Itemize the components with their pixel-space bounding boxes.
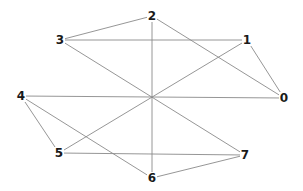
edge-1-0: [247, 40, 284, 98]
node-label: 7: [241, 148, 249, 162]
node-2: 2: [147, 9, 157, 23]
node-0: 0: [279, 91, 289, 105]
node-5: 5: [54, 146, 64, 160]
node-1: 1: [242, 33, 252, 47]
node-label: 2: [148, 9, 156, 23]
node-7: 7: [240, 148, 250, 162]
node-label: 3: [56, 33, 64, 47]
edge-6-7: [152, 155, 245, 178]
node-label: 5: [55, 146, 63, 160]
node-label: 4: [17, 89, 25, 103]
edge-3-2: [60, 16, 152, 40]
node-6: 6: [147, 171, 157, 185]
graph-diagram: 01234567: [0, 0, 303, 191]
node-label: 0: [280, 91, 288, 105]
edge-4-5: [21, 96, 59, 153]
node-3: 3: [55, 33, 65, 47]
node-4: 4: [16, 89, 26, 103]
node-label: 6: [148, 171, 156, 185]
node-label: 1: [243, 33, 251, 47]
edge-4-6: [21, 96, 152, 178]
